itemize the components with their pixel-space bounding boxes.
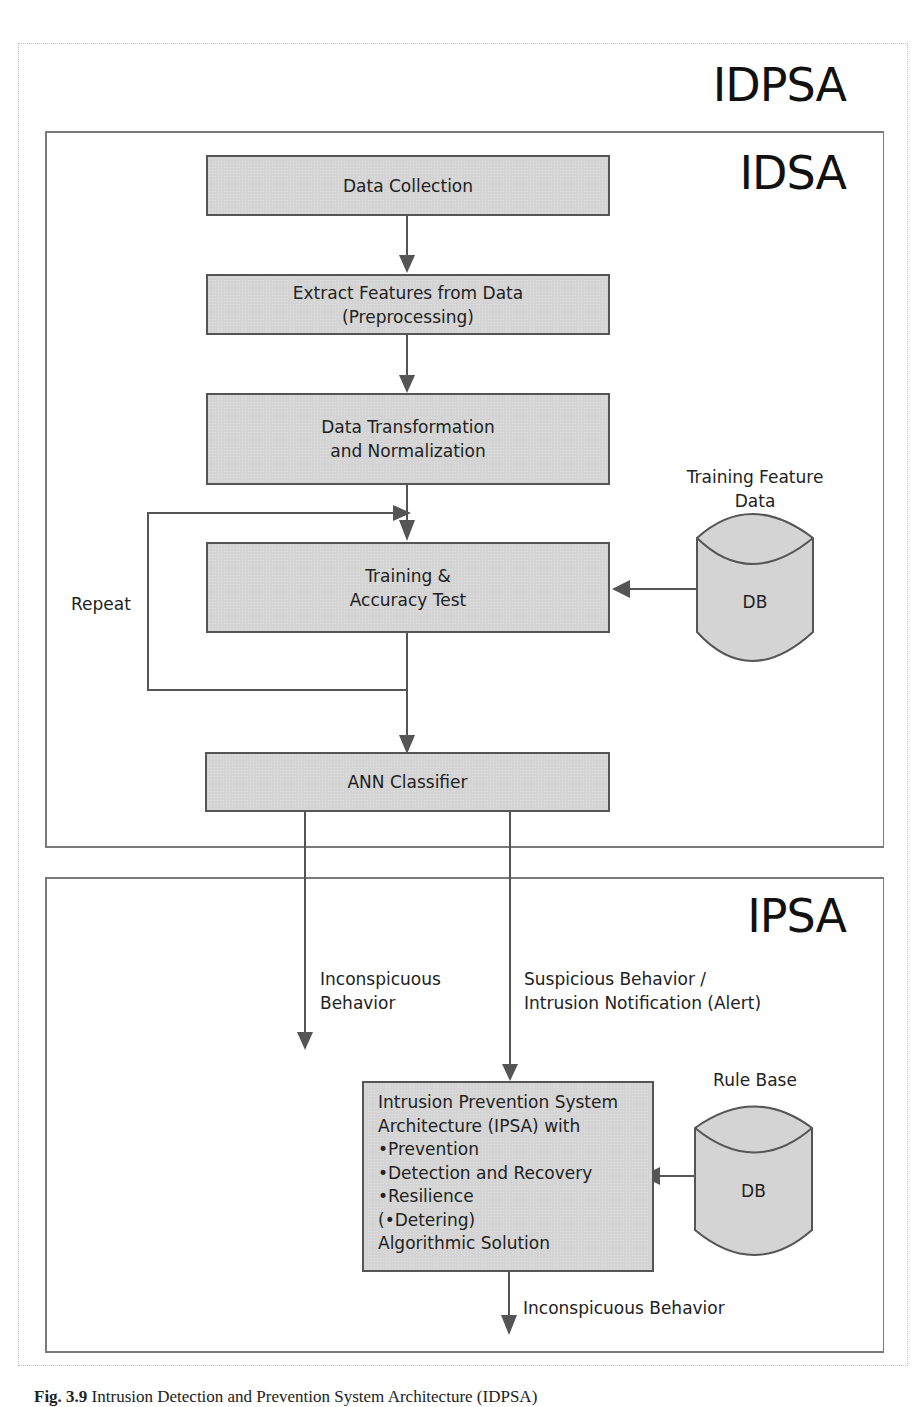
rule-db-caption: Rule Base <box>685 1068 825 1092</box>
data-collection-label: Data Collection <box>343 174 473 198</box>
figure-caption-prefix: Fig. 3.9 <box>34 1387 87 1406</box>
ipsa-solution-box: Intrusion Prevention System Architecture… <box>362 1081 654 1272</box>
training-db-caption-line1: Training Feature <box>670 465 840 489</box>
inconspicuous-branch-line1: Inconspicuous <box>320 967 441 991</box>
ipsa-box-line2: Architecture (IPSA) with <box>378 1115 580 1139</box>
inconspicuous-branch-label: Inconspicuous Behavior <box>320 967 441 1015</box>
idpsa-title: IDPSA <box>600 62 846 108</box>
rule-db-label: DB <box>695 1179 812 1203</box>
repeat-label: Repeat <box>71 592 131 616</box>
ipsa-title: IPSA <box>600 893 846 939</box>
inconspicuous-branch-line2: Behavior <box>320 991 441 1015</box>
idsa-title: IDSA <box>600 150 846 196</box>
ipsa-box-bullet-detection: •Detection and Recovery <box>378 1162 592 1186</box>
training-db-label: DB <box>697 590 813 614</box>
ann-classifier-box: ANN Classifier <box>205 752 610 812</box>
training-accuracy-box: Training & Accuracy Test <box>206 542 610 633</box>
output-inconspicuous-label: Inconspicuous Behavior <box>523 1296 725 1320</box>
training-db-caption: Training Feature Data <box>670 465 840 513</box>
ipsa-box-bullet-prevention: •Prevention <box>378 1138 479 1162</box>
ipsa-box-line1: Intrusion Prevention System <box>378 1091 618 1115</box>
extract-features-label-line2: (Preprocessing) <box>342 305 474 329</box>
ipsa-box-bullet-resilience: •Resilience <box>378 1185 474 1209</box>
extract-features-box: Extract Features from Data (Preprocessin… <box>206 274 610 335</box>
training-accuracy-label-line1: Training & <box>365 564 451 588</box>
data-transformation-label-line2: and Normalization <box>330 439 486 463</box>
ipsa-box-line7: Algorithmic Solution <box>378 1232 550 1256</box>
suspicious-branch-line2: Intrusion Notification (Alert) <box>524 991 761 1015</box>
training-db-caption-line2: Data <box>670 489 840 513</box>
data-transformation-label-line1: Data Transformation <box>321 415 495 439</box>
ann-classifier-label: ANN Classifier <box>347 770 467 794</box>
figure-caption: Fig. 3.9 Intrusion Detection and Prevent… <box>34 1387 537 1407</box>
figure-caption-text: Intrusion Detection and Prevention Syste… <box>92 1387 538 1406</box>
suspicious-branch-line1: Suspicious Behavior / <box>524 967 761 991</box>
training-accuracy-label-line2: Accuracy Test <box>350 588 467 612</box>
data-transformation-box: Data Transformation and Normalization <box>206 393 610 485</box>
extract-features-label-line1: Extract Features from Data <box>293 281 523 305</box>
suspicious-branch-label: Suspicious Behavior / Intrusion Notifica… <box>524 967 761 1015</box>
ipsa-box-bullet-detering: (•Detering) <box>378 1209 475 1233</box>
data-collection-box: Data Collection <box>206 155 610 216</box>
